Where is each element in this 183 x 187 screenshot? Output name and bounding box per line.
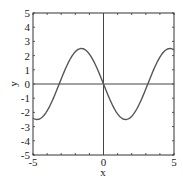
tick-labels: -505-5-4-3-2-1012345 — [21, 7, 177, 168]
x-tick-label: 5 — [171, 156, 177, 168]
line-chart: -505-5-4-3-2-1012345 x y — [0, 0, 183, 187]
y-tick-label: 1 — [25, 64, 31, 76]
y-axis-label: y — [7, 81, 19, 87]
y-tick-label: 2 — [25, 50, 31, 62]
y-tick-label: 4 — [25, 21, 31, 33]
y-tick-label: -2 — [21, 106, 30, 118]
y-tick-label: -4 — [21, 135, 31, 147]
y-tick-label: -1 — [21, 92, 30, 104]
x-axis-label: x — [100, 166, 106, 178]
y-tick-label: 0 — [25, 78, 31, 90]
y-tick-label: -5 — [21, 149, 31, 161]
y-tick-label: 5 — [25, 7, 31, 19]
y-tick-label: 3 — [25, 35, 31, 47]
y-tick-label: -3 — [21, 121, 31, 133]
